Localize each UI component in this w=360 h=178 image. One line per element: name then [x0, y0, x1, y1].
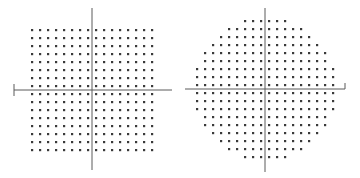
grid-dot	[324, 108, 326, 110]
grid-dot	[308, 36, 310, 38]
grid-dot	[316, 52, 318, 54]
grid-dot	[292, 44, 294, 46]
grid-dot	[332, 100, 334, 102]
grid-dot	[236, 148, 238, 150]
grid-dot	[151, 37, 153, 39]
grid-dot	[71, 125, 73, 127]
grid-dot	[47, 53, 49, 55]
grid-dot	[47, 109, 49, 111]
grid-dot	[111, 109, 113, 111]
grid-dot	[316, 60, 318, 62]
grid-dot	[236, 124, 238, 126]
grid-dot	[212, 108, 214, 110]
grid-dot	[127, 125, 129, 127]
grid-dot	[324, 60, 326, 62]
grid-dot	[300, 28, 302, 30]
grid-dot	[143, 37, 145, 39]
grid-dot	[47, 45, 49, 47]
grid-dot	[63, 93, 65, 95]
grid-dot	[39, 61, 41, 63]
grid-dot	[87, 141, 89, 143]
grid-dot	[260, 20, 262, 22]
grid-dot	[151, 85, 153, 87]
grid-dot	[87, 85, 89, 87]
grid-dot	[79, 133, 81, 135]
grid-dot	[252, 116, 254, 118]
grid-dot	[143, 61, 145, 63]
grid-dot	[260, 92, 262, 94]
grid-dot	[212, 116, 214, 118]
grid-dot	[228, 28, 230, 30]
grid-dot	[95, 77, 97, 79]
grid-dot	[71, 109, 73, 111]
grid-dot	[268, 84, 270, 86]
grid-dot	[111, 149, 113, 151]
grid-dot	[244, 68, 246, 70]
grid-dot	[300, 76, 302, 78]
grid-dot	[292, 28, 294, 30]
grid-dot	[151, 29, 153, 31]
grid-dot	[119, 117, 121, 119]
grid-dot	[103, 117, 105, 119]
grid-dot	[284, 28, 286, 30]
grid-dot	[111, 53, 113, 55]
grid-dot	[228, 108, 230, 110]
grid-dot	[119, 125, 121, 127]
grid-dot	[87, 93, 89, 95]
grid-dot	[31, 117, 33, 119]
grid-dot	[47, 37, 49, 39]
grid-dot	[284, 52, 286, 54]
grid-dot	[63, 29, 65, 31]
grid-dot	[252, 100, 254, 102]
grid-dot	[244, 116, 246, 118]
grid-dot	[276, 52, 278, 54]
grid-dot	[308, 100, 310, 102]
grid-dot	[47, 125, 49, 127]
grid-dot	[111, 141, 113, 143]
grid-dot	[95, 69, 97, 71]
grid-dot	[292, 60, 294, 62]
grid-dot	[212, 132, 214, 134]
grid-dot	[284, 116, 286, 118]
grid-dot	[87, 37, 89, 39]
grid-dot	[79, 53, 81, 55]
grid-dot	[244, 84, 246, 86]
grid-dot	[31, 101, 33, 103]
grid-dot	[212, 92, 214, 94]
grid-dot	[63, 37, 65, 39]
grid-dot	[236, 100, 238, 102]
grid-dot	[87, 61, 89, 63]
grid-dot	[276, 20, 278, 22]
grid-dot	[135, 29, 137, 31]
grid-dot	[151, 141, 153, 143]
grid-dot	[111, 69, 113, 71]
grid-dot	[228, 76, 230, 78]
grid-dot	[31, 125, 33, 127]
grid-dot	[103, 29, 105, 31]
grid-dot	[196, 92, 198, 94]
grid-dot	[316, 108, 318, 110]
grid-dot	[332, 84, 334, 86]
grid-dot	[260, 60, 262, 62]
grid-dot	[204, 100, 206, 102]
grid-dot	[236, 140, 238, 142]
grid-dot	[284, 76, 286, 78]
grid-dot	[39, 125, 41, 127]
grid-dot	[103, 77, 105, 79]
grid-dot	[324, 124, 326, 126]
grid-dot	[39, 149, 41, 151]
grid-dot	[212, 84, 214, 86]
grid-dot	[31, 53, 33, 55]
grid-dot	[103, 109, 105, 111]
grid-dot	[284, 36, 286, 38]
grid-dot	[79, 45, 81, 47]
grid-dot	[63, 109, 65, 111]
grid-dot	[127, 141, 129, 143]
grid-dot	[127, 117, 129, 119]
grid-dot	[119, 141, 121, 143]
grid-dot	[276, 140, 278, 142]
grid-dot	[111, 45, 113, 47]
grid-dot	[31, 45, 33, 47]
grid-dot	[268, 52, 270, 54]
grid-dot	[135, 117, 137, 119]
